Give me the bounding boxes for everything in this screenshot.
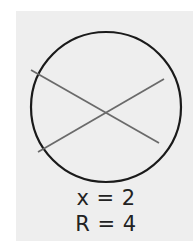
circle-outline <box>31 32 181 182</box>
radius-value-label: R = 4 <box>60 212 152 236</box>
chord-1 <box>31 70 159 143</box>
chord-2 <box>38 79 164 152</box>
x-value-label: x = 2 <box>60 186 152 210</box>
